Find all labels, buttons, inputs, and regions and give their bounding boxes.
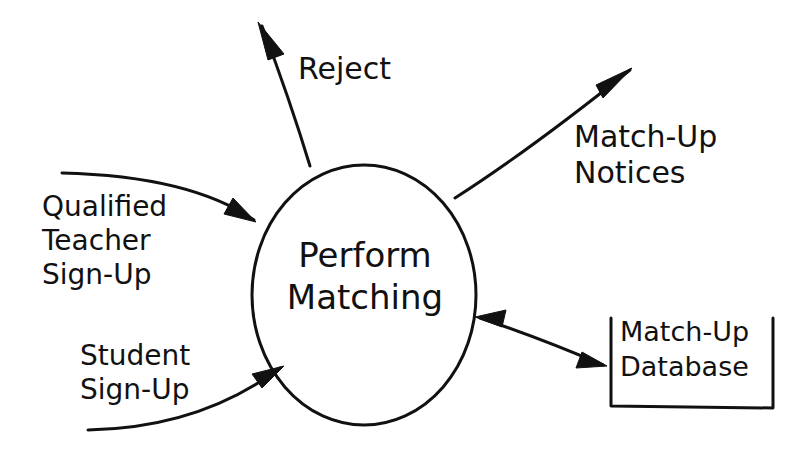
teacher-signup-arrowhead-icon (224, 198, 256, 222)
database-arrowhead-right-icon (576, 352, 607, 368)
reject-label: Reject (298, 54, 391, 84)
teacher-signup-label: Qualified Teacher Sign-Up (42, 193, 167, 289)
student-signup-label: Student Sign-Up (80, 342, 190, 404)
process-label-line1: Perform (285, 238, 445, 272)
process-label-line2: Matching (285, 280, 445, 314)
data-store-label: Match-Up Database (620, 318, 749, 380)
reject-arrowhead-icon (258, 22, 284, 60)
notices-label: Match-Up Notices (574, 122, 717, 188)
notices-arrowhead-icon (596, 68, 632, 98)
database-arrowhead-left-icon (475, 310, 506, 327)
process-label: Perform Matching (285, 238, 445, 314)
